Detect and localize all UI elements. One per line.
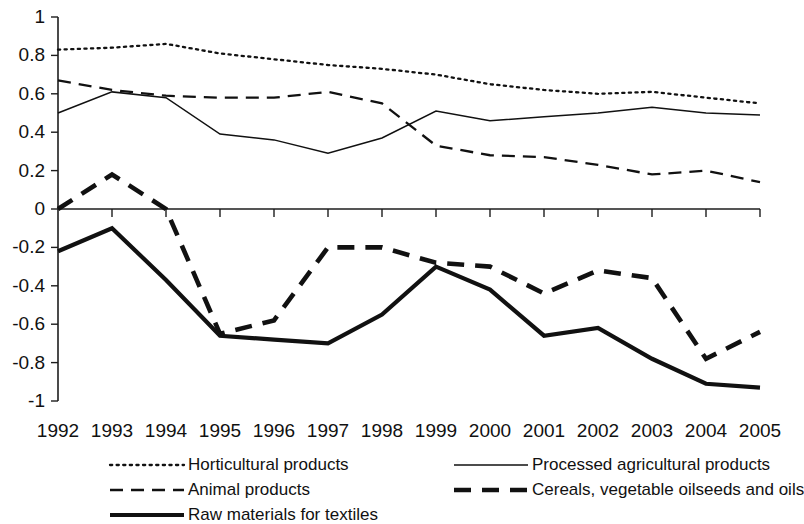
legend-item-animal-products: Animal products bbox=[108, 479, 310, 501]
legend-item-raw-materials-for-textiles: Raw materials for textiles bbox=[108, 504, 378, 524]
x-axis-ticks bbox=[112, 209, 760, 217]
x-tick-label: 2005 bbox=[739, 420, 781, 441]
legend-label-horticultural-products: Horticultural products bbox=[188, 456, 349, 474]
series-line-raw-materials-for-textiles bbox=[58, 228, 760, 387]
x-tick-label: 1998 bbox=[361, 420, 403, 441]
y-tick-label: -0.4 bbox=[12, 275, 45, 296]
legend-item-processed-agricultural-products: Processed agricultural products bbox=[452, 454, 770, 476]
x-tick-label: 2003 bbox=[631, 420, 673, 441]
x-tick-label: 1994 bbox=[145, 420, 188, 441]
x-tick-label: 1996 bbox=[253, 420, 295, 441]
y-tick-label: 0.8 bbox=[19, 44, 45, 65]
series-line-animal-products bbox=[58, 80, 760, 182]
legend-label-processed-agricultural-products: Processed agricultural products bbox=[532, 456, 770, 474]
legend-swatch-solid-thin-icon bbox=[452, 456, 530, 474]
x-tick-label: 2000 bbox=[469, 420, 511, 441]
y-tick-label: 0.4 bbox=[19, 121, 46, 142]
x-tick-label: 2001 bbox=[523, 420, 565, 441]
legend-item-cereals-vegetable-oilseeds-and-oils: Cereals, vegetable oilseeds and oils bbox=[452, 479, 804, 501]
x-tick-label: 1997 bbox=[307, 420, 349, 441]
x-tick-label: 1993 bbox=[91, 420, 133, 441]
y-tick-label: -0.8 bbox=[12, 352, 45, 373]
legend-label-cereals-vegetable-oilseeds-and-oils: Cereals, vegetable oilseeds and oils bbox=[532, 481, 804, 499]
y-axis-labels: 10.80.60.40.20-0.2-0.4-0.6-0.8-1 bbox=[12, 6, 45, 411]
legend-swatch-dashed-thick-icon bbox=[452, 481, 530, 499]
y-tick-label: 0.2 bbox=[19, 160, 45, 181]
legend-label-raw-materials-for-textiles: Raw materials for textiles bbox=[188, 506, 378, 524]
legend-swatch-dotted-icon bbox=[108, 456, 186, 474]
y-axis-ticks bbox=[51, 17, 58, 401]
y-tick-label: 0.6 bbox=[19, 83, 45, 104]
series-line-processed-agricultural-products bbox=[58, 92, 760, 153]
legend-item-horticultural-products: Horticultural products bbox=[108, 454, 349, 476]
series-line-cereals-vegetable-oilseeds-and-oils bbox=[58, 174, 760, 358]
y-tick-label: -0.6 bbox=[12, 313, 45, 334]
x-tick-label: 1995 bbox=[199, 420, 241, 441]
y-tick-label: -0.2 bbox=[12, 236, 45, 257]
x-tick-label: 1999 bbox=[415, 420, 457, 441]
y-tick-label: 1 bbox=[34, 6, 45, 27]
x-tick-label: 2002 bbox=[577, 420, 619, 441]
legend-swatch-solid-thick-icon bbox=[108, 506, 186, 524]
x-tick-label: 1992 bbox=[37, 420, 79, 441]
x-axis-labels: 1992199319941995199619971998199920002001… bbox=[37, 420, 781, 441]
series-paths bbox=[58, 44, 760, 388]
x-tick-label: 2004 bbox=[685, 420, 728, 441]
legend-label-animal-products: Animal products bbox=[188, 481, 310, 499]
chart-legend: Horticultural products Animal products R… bbox=[0, 450, 785, 518]
y-tick-label: 0 bbox=[34, 198, 45, 219]
line-chart-plot: 10.80.60.40.20-0.2-0.4-0.6-0.8-1 1992199… bbox=[0, 0, 785, 450]
legend-swatch-dashed-icon bbox=[108, 481, 186, 499]
y-tick-label: -1 bbox=[28, 390, 45, 411]
